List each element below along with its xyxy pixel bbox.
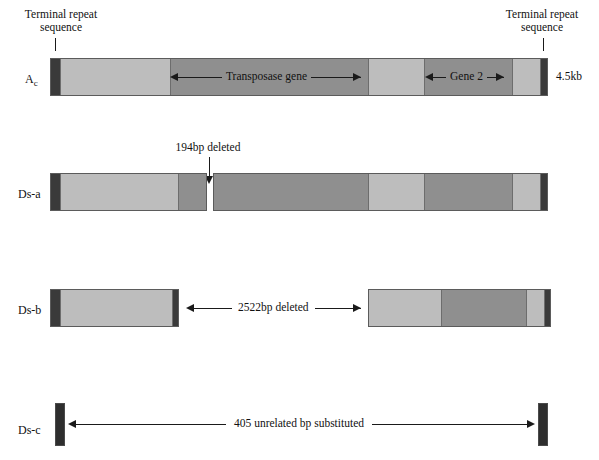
- row-label-ds-b-text: Ds-b: [18, 303, 41, 317]
- segment-light-3: [512, 174, 540, 210]
- substitution-arrow-head-left: [68, 420, 76, 428]
- row-label-ds-a: Ds-a: [18, 187, 41, 202]
- figure-canvas: Terminal repeat sequence Terminal repeat…: [0, 0, 599, 460]
- terminal-repeat-left-label-line1: Terminal repeat: [6, 8, 116, 21]
- segment-light-3: [512, 59, 540, 95]
- size-label-4-5kb: 4.5kb: [556, 70, 582, 83]
- deletion-2522bp-label: 2522bp deleted: [232, 301, 315, 313]
- element-bar-ds-b-right: [368, 289, 551, 327]
- segment-light-1: [60, 59, 170, 95]
- segment-terminal-repeat-left: [51, 174, 60, 210]
- terminal-repeat-left-pointer: [55, 38, 56, 51]
- segment-terminal-repeat-right: [540, 174, 548, 210]
- deletion-194bp-arrow-line: [209, 157, 210, 177]
- segment-gene-2: [441, 290, 526, 326]
- terminal-repeat-right-pointer: [543, 38, 544, 51]
- row-label-ac-text: A: [25, 72, 34, 86]
- row-label-ac-subscript: c: [34, 78, 38, 88]
- gene2-label: Gene 2: [446, 70, 487, 82]
- transposase-arrow-head-left: [170, 73, 178, 81]
- gene2-arrow-head-left: [425, 73, 433, 81]
- deletion-2522bp-arrow-head-left: [186, 304, 194, 312]
- substitution-405bp-label: 405 unrelated bp substituted: [226, 417, 372, 429]
- segment-light-2: [368, 174, 424, 210]
- row-label-ac: Ac: [25, 72, 38, 88]
- segment-gene-2: [424, 174, 512, 210]
- segment-light-2: [369, 290, 441, 326]
- segment-transposase-gene-part: [178, 174, 207, 210]
- row-label-ds-c-text: Ds-c: [18, 423, 41, 437]
- element-bar-ds-a-right: [213, 173, 548, 211]
- terminal-repeat-block-right: [538, 403, 548, 446]
- transposase-arrow-head-right: [353, 73, 361, 81]
- deletion-2522bp-arrow-head-right: [353, 304, 361, 312]
- segment-light-3: [526, 290, 544, 326]
- segment-light-2: [368, 59, 424, 95]
- segment-light-1: [60, 290, 172, 326]
- gene2-arrow-head-right: [496, 73, 504, 81]
- row-label-ds-a-text: Ds-a: [18, 187, 41, 201]
- segment-terminal-repeat-right: [540, 59, 548, 95]
- segment-terminal-repeat-right: [544, 290, 551, 326]
- transposase-gene-label: Transposase gene: [222, 70, 311, 82]
- terminal-repeat-block-left: [55, 403, 65, 446]
- row-label-ds-b: Ds-b: [18, 303, 41, 318]
- segment-terminal-repeat-left: [51, 59, 60, 95]
- terminal-repeat-right-label-line2: sequence: [487, 21, 597, 34]
- row-label-ds-c: Ds-c: [18, 423, 41, 438]
- deletion-194bp-label: 194bp deleted: [138, 141, 278, 154]
- element-bar-ds-b-left: [50, 289, 179, 327]
- segment-dark-edge: [172, 290, 179, 326]
- segment-transposase-gene-rest: [214, 174, 368, 210]
- terminal-repeat-right-label-line1: Terminal repeat: [487, 8, 597, 21]
- segment-terminal-repeat-left: [51, 290, 60, 326]
- substitution-arrow-head-right: [527, 420, 535, 428]
- segment-light-1: [60, 174, 178, 210]
- terminal-repeat-left-label-line2: sequence: [6, 21, 116, 34]
- element-bar-ds-a-left: [50, 173, 207, 211]
